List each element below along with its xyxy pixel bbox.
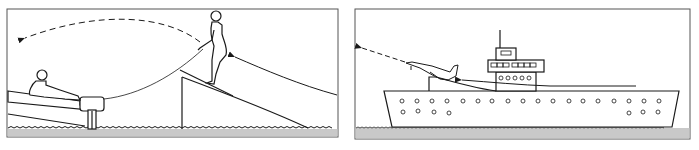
ski-jump-panel [0, 0, 345, 150]
water [356, 128, 690, 139]
ship-panel [350, 0, 699, 150]
ski-jump-illustration [0, 0, 345, 150]
ship-illustration [350, 0, 699, 150]
ship-hull [384, 91, 679, 127]
water [8, 129, 338, 137]
